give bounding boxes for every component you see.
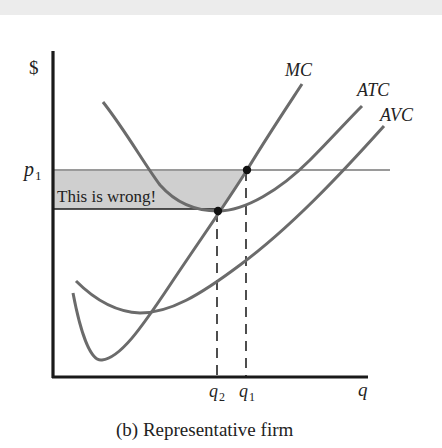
atc-label: ATC <box>356 80 390 100</box>
q2-tick-main: q <box>209 381 218 401</box>
mc-curve <box>73 84 302 360</box>
wrong-annotation: This is wrong! <box>57 187 156 206</box>
avc-curve <box>76 126 384 313</box>
y-axis-label: $ <box>29 57 39 78</box>
cost-curves-chart: $ p1 This is wrong! MC ATC AVC q2 q1 q (… <box>0 0 442 448</box>
q1-tick-sub: 1 <box>249 390 255 404</box>
q2-tick-label: q2 <box>209 381 225 404</box>
mc-label: MC <box>284 60 313 80</box>
q1-tick-main: q <box>239 381 248 401</box>
chart-caption: (b) Representative firm <box>116 419 293 441</box>
x-axis-label: q <box>358 379 368 400</box>
avc-label: AVC <box>379 105 414 125</box>
q2-tick-sub: 2 <box>219 390 225 404</box>
p1-label: p1 <box>22 158 42 183</box>
p1-label-main: p <box>22 158 34 181</box>
p1-label-sub: 1 <box>35 168 42 183</box>
q2-point <box>214 207 222 215</box>
q1-tick-label: q1 <box>239 381 255 404</box>
q1-point <box>243 166 251 174</box>
